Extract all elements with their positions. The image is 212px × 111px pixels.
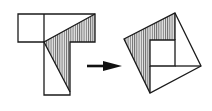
arrow-head xyxy=(103,61,122,71)
diagram-canvas: T-shape dissection rearranged into a til… xyxy=(0,0,212,111)
arrow-right-icon xyxy=(87,61,122,71)
left-figure-t-shape xyxy=(18,14,95,95)
right-figure-tilted-square xyxy=(124,13,201,93)
diagram-svg xyxy=(0,0,212,111)
inner-square xyxy=(150,40,175,66)
